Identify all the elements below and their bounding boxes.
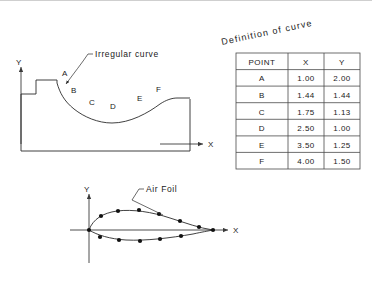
- airfoil-point-marker: [179, 234, 183, 238]
- airfoil-point-marker: [87, 228, 91, 232]
- airfoil-axis-x-label: X: [233, 226, 239, 235]
- table-cell-point: C: [259, 108, 265, 117]
- table-cell-x: 1.75: [297, 108, 315, 117]
- table-cell-point: B: [259, 91, 265, 100]
- airfoil-diagram: Y X Air Foil: [70, 184, 239, 263]
- curve-point-label-a: A: [62, 69, 68, 78]
- table-cell-point: D: [259, 124, 265, 133]
- table-cell-x: 3.50: [297, 141, 315, 150]
- table-cell-y: 1.00: [333, 124, 351, 133]
- table-header-point: POINT: [249, 58, 276, 67]
- airfoil-upper-surface: [89, 210, 213, 230]
- airfoil-point-marker: [211, 228, 215, 232]
- table-cell-point: E: [259, 141, 265, 150]
- table-header-x: X: [303, 58, 309, 67]
- table-cell-x: 1.00: [297, 74, 315, 83]
- airfoil-point-marker: [197, 225, 201, 229]
- table-cell-x: 2.50: [297, 124, 315, 133]
- table-cell-point: A: [259, 74, 265, 83]
- top-profile-diagram: Y X A B C D E F Irregular curve: [16, 49, 214, 151]
- table-header-y: Y: [339, 58, 345, 67]
- table-cell-y: 1.13: [333, 108, 351, 117]
- airfoil-point-marker: [158, 237, 162, 241]
- airfoil-axis-y-label: Y: [84, 185, 90, 194]
- airfoil-point-marker: [116, 209, 120, 213]
- airfoil-point-marker: [99, 214, 103, 218]
- irregular-curve-annotation: Irregular curve: [95, 49, 159, 59]
- airfoil-point-marker: [178, 219, 182, 223]
- airfoil-point-marker: [137, 208, 141, 212]
- airfoil-point-marker: [98, 235, 102, 239]
- airfoil-lower-surface: [89, 230, 213, 240]
- table-cell-y: 1.50: [333, 157, 351, 166]
- top-axis-y-label: Y: [16, 58, 22, 67]
- technical-drawing: Y X A B C D E F Irregular curve: [0, 1, 372, 285]
- profile-outline-step: [21, 80, 57, 94]
- table-cell-point: F: [259, 157, 264, 166]
- airfoil-annotation: Air Foil: [146, 184, 177, 194]
- irregular-curve: [57, 83, 190, 123]
- definition-table-title: Definition of curve: [220, 18, 313, 47]
- irregular-curve-leader: [66, 54, 88, 84]
- curve-point-label-d: D: [110, 102, 116, 111]
- curve-point-label-b: B: [71, 86, 77, 95]
- curve-point-label-c: C: [89, 98, 95, 107]
- table-cell-y: 2.00: [333, 74, 351, 83]
- airfoil-point-marker: [138, 239, 142, 243]
- curve-point-label-f: F: [156, 85, 161, 94]
- table-cell-x: 4.00: [297, 157, 315, 166]
- table-cell-y: 1.25: [333, 141, 351, 150]
- table-cell-y: 1.44: [333, 91, 351, 100]
- table-cell-x: 1.44: [297, 91, 315, 100]
- drawing-canvas: Y X A B C D E F Irregular curve: [0, 0, 372, 285]
- curve-point-label-e: E: [137, 94, 143, 103]
- airfoil-point-marker: [117, 238, 121, 242]
- definition-table: Definition of curve POINT X Y A 1.00 2.0…: [220, 18, 360, 169]
- top-axis-x-label: X: [208, 140, 214, 149]
